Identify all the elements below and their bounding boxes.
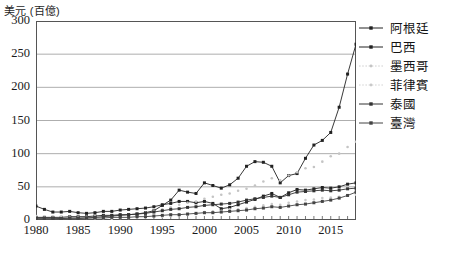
series-marker-4 [169,208,172,211]
series-marker-2 [329,155,332,158]
series-marker-2 [279,179,282,182]
series-marker-3 [304,199,307,202]
y-tick-label: 300 [0,14,30,27]
legend-swatch-icon [358,60,384,72]
series-marker-4 [346,187,349,190]
series-marker-0 [321,186,324,189]
series-marker-0 [237,203,240,206]
series-marker-3 [270,203,273,206]
legend-label: 巴西 [390,37,416,56]
series-marker-5 [186,213,189,216]
series-marker-2 [178,203,181,206]
series-marker-5 [144,215,147,218]
series-marker-1 [279,181,282,184]
series-marker-2 [212,195,215,198]
series-marker-5 [338,197,341,200]
series-marker-2 [321,160,324,163]
legend-item-3[interactable]: 菲律賓 [358,75,468,94]
series-marker-5 [211,211,214,214]
series-marker-0 [338,185,341,188]
series-marker-2 [287,174,290,177]
series-marker-5 [178,213,181,216]
series-marker-4 [287,193,290,196]
series-marker-5 [312,201,315,204]
series-marker-3 [262,204,265,207]
series-marker-1 [186,191,189,194]
series-marker-4 [136,213,139,216]
series-marker-5 [253,207,256,210]
series-marker-4 [355,187,357,190]
series-marker-0 [51,211,54,214]
series-marker-4 [329,189,332,192]
series-marker-5 [287,205,290,208]
series-marker-4 [262,196,265,199]
series-marker-3 [279,203,282,206]
chart-figure: 美元 (百億) 300250200150100500 1980198519901… [0,0,470,258]
series-marker-5 [102,217,105,220]
series-marker-2 [270,177,273,180]
series-marker-1 [237,177,240,180]
series-marker-1 [178,189,181,192]
series-marker-5 [119,216,122,219]
series-marker-2 [195,200,198,203]
series-marker-1 [169,199,172,202]
series-line-0 [36,183,356,214]
legend-swatch-icon [358,41,384,53]
series-marker-3 [287,201,290,204]
y-tick-label: 100 [0,147,30,160]
x-tick-label: 1995 [139,224,185,237]
series-marker-4 [144,212,147,215]
x-tick-label: 2000 [181,224,227,237]
y-tick-label: 150 [0,114,30,127]
series-marker-5 [220,211,223,214]
legend-swatch-icon [358,98,384,110]
series-marker-4 [321,189,324,192]
y-tick-label: 250 [0,47,30,60]
series-marker-2 [346,146,349,149]
legend-item-5[interactable]: 臺灣 [358,113,468,132]
series-marker-5 [77,217,80,220]
series-marker-0 [85,212,88,215]
series-marker-1 [338,106,341,109]
series-marker-5 [136,215,139,218]
series-marker-2 [186,201,189,204]
series-marker-1 [312,144,315,147]
legend-item-4[interactable]: 泰國 [358,94,468,113]
series-marker-2 [237,190,240,193]
series-marker-5 [355,191,357,194]
series-marker-5 [60,217,63,220]
legend-item-2[interactable]: 墨西哥 [358,56,468,75]
series-marker-5 [169,213,172,216]
series-marker-1 [220,187,223,190]
series-marker-0 [43,208,46,211]
series-marker-4 [237,201,240,204]
legend-item-0[interactable]: 阿根廷 [358,18,468,37]
series-marker-4 [304,190,307,193]
series-marker-0 [136,207,139,210]
series-marker-5 [43,217,46,220]
series-marker-0 [346,183,349,186]
legend-item-1[interactable]: 巴西 [358,37,468,56]
y-tick-label: 50 [0,180,30,193]
series-marker-0 [77,211,80,214]
series-marker-5 [195,212,198,215]
series-marker-0 [355,181,357,184]
x-tick-label: 1980 [13,224,59,237]
series-marker-4 [312,189,315,192]
legend-label: 阿根廷 [390,18,429,37]
series-marker-0 [102,210,105,213]
series-marker-5 [296,203,299,206]
series-marker-5 [270,205,273,208]
series-marker-0 [93,211,96,214]
series-marker-1 [211,184,214,187]
series-marker-5 [161,214,164,217]
series-marker-0 [178,200,181,203]
series-marker-4 [152,211,155,214]
series-marker-4 [338,189,341,192]
series-marker-0 [152,205,155,208]
series-marker-0 [296,188,299,191]
series-marker-4 [253,197,256,200]
series-marker-3 [321,197,324,200]
series-marker-1 [228,183,231,186]
series-marker-5 [346,194,349,197]
